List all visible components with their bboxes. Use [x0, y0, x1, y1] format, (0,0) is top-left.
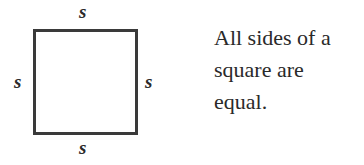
side-label-right: s: [145, 72, 152, 91]
caption-line-1: All sides of a: [214, 22, 331, 54]
side-label-bottom: s: [79, 138, 86, 157]
caption-line-3: equal.: [214, 86, 331, 118]
side-label-left: s: [14, 72, 21, 91]
caption-text: All sides of a square are equal.: [214, 22, 331, 118]
side-label-top: s: [79, 2, 86, 21]
square-shape: [33, 29, 138, 135]
caption-line-2: square are: [214, 54, 331, 86]
